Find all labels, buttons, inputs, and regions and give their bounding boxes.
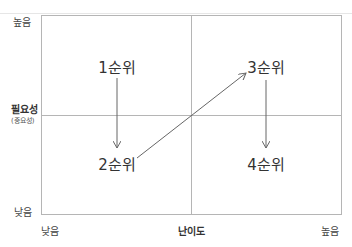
y-axis-high-label: 높음 [13,14,31,29]
x-axis-title: 난이도 [178,223,205,238]
x-axis-high-label: 높음 [321,223,339,238]
y-axis-low-label: 낮음 [14,204,32,219]
rank-1-label: 1순위 [98,56,136,77]
y-axis-subtitle: (중요성) [11,115,34,125]
rank-3-label: 3순위 [247,56,285,77]
y-axis-title: 필요성 [11,101,38,116]
rank-2-label: 2순위 [98,153,136,174]
priority-matrix [0,0,352,247]
x-axis-low-label: 낮음 [41,223,59,238]
rank-4-label: 4순위 [247,153,285,174]
